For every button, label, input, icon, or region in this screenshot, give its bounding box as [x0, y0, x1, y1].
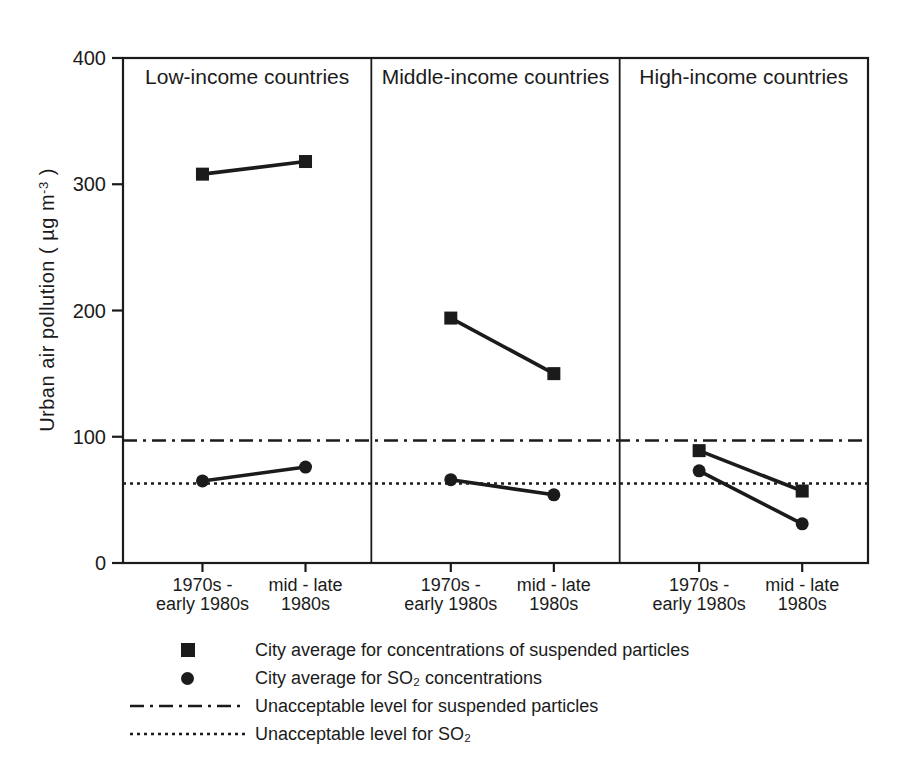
- panel-title: High-income countries: [639, 65, 848, 88]
- data-marker-circle: [796, 517, 809, 530]
- y-tick-label: 200: [73, 300, 106, 322]
- data-marker-square: [693, 444, 706, 457]
- x-tick-label: 1980s: [529, 594, 578, 614]
- x-tick-label: early 1980s: [653, 594, 746, 614]
- data-marker-circle: [444, 473, 457, 486]
- x-tick-label: 1970s -: [172, 575, 232, 595]
- legend-marker-cell: [130, 643, 245, 657]
- y-tick-label: 100: [73, 426, 106, 448]
- panel-title: Low-income countries: [145, 65, 349, 88]
- data-marker-square: [796, 485, 809, 498]
- legend-label: City average for SO₂ concentrations: [255, 668, 542, 689]
- dotted-line-icon: [130, 731, 245, 737]
- x-tick-label: mid - late: [269, 575, 343, 595]
- data-marker-circle: [299, 461, 312, 474]
- x-tick-label: early 1980s: [404, 594, 497, 614]
- legend-item-unacceptable-particles: Unacceptable level for suspended particl…: [130, 692, 689, 720]
- legend-label: Unacceptable level for SO₂: [255, 724, 471, 745]
- legend-item-unacceptable-so2: Unacceptable level for SO₂: [130, 720, 689, 748]
- chart-legend: City average for concentrations of suspe…: [130, 636, 689, 748]
- legend-marker-cell: [130, 672, 245, 685]
- data-line-suspended_particles: [451, 318, 554, 374]
- x-tick-label: 1970s -: [669, 575, 729, 595]
- data-marker-circle: [547, 488, 560, 501]
- data-marker-square: [444, 312, 457, 325]
- data-line-suspended_particles: [699, 451, 802, 491]
- circle-marker-icon: [181, 672, 194, 685]
- data-line-so2: [202, 467, 305, 481]
- figure-page: 0100200300400Low-income countries1970s -…: [0, 0, 911, 775]
- data-line-so2: [451, 480, 554, 495]
- data-line-suspended_particles: [202, 162, 305, 175]
- y-axis-label-text: Urban air pollution ( µg m: [36, 194, 58, 432]
- legend-label: City average for concentrations of suspe…: [255, 640, 689, 661]
- data-marker-square: [299, 155, 312, 168]
- y-axis-label-superscript: -3: [36, 181, 51, 194]
- y-tick-label: 0: [95, 552, 106, 574]
- legend-item-so2: City average for SO₂ concentrations: [130, 664, 689, 692]
- legend-item-suspended-particles: City average for concentrations of suspe…: [130, 636, 689, 664]
- legend-marker-cell: [130, 703, 245, 709]
- y-tick-label: 300: [73, 173, 106, 195]
- dash-dot-line-icon: [130, 703, 245, 709]
- x-tick-label: 1980s: [281, 594, 330, 614]
- y-axis-label-close: ): [36, 168, 58, 181]
- data-marker-circle: [196, 474, 209, 487]
- panel-title: Middle-income countries: [382, 65, 610, 88]
- x-tick-label: 1970s -: [421, 575, 481, 595]
- legend-label: Unacceptable level for suspended particl…: [255, 696, 598, 717]
- urban-air-pollution-chart: 0100200300400Low-income countries1970s -…: [0, 0, 911, 622]
- data-marker-square: [196, 168, 209, 181]
- data-marker-square: [547, 367, 560, 380]
- square-marker-icon: [181, 643, 195, 657]
- x-tick-label: early 1980s: [156, 594, 249, 614]
- data-marker-circle: [693, 464, 706, 477]
- data-line-so2: [699, 471, 802, 524]
- y-tick-label: 400: [73, 47, 106, 69]
- x-tick-label: 1980s: [778, 594, 827, 614]
- x-tick-label: mid - late: [517, 575, 591, 595]
- x-tick-label: mid - late: [765, 575, 839, 595]
- y-axis-label: Urban air pollution ( µg m-3 ): [36, 168, 59, 432]
- legend-marker-cell: [130, 731, 245, 737]
